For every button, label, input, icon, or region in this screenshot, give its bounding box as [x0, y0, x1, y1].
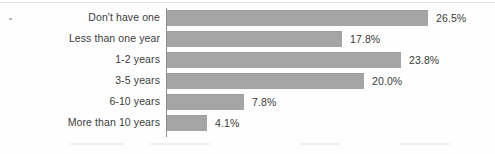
bar-row: More than 10 years 4.1%: [0, 114, 495, 135]
category-label: 6-10 years: [0, 95, 160, 108]
category-label: 1-2 years: [0, 53, 160, 66]
scan-smudge: [400, 143, 450, 145]
value-label: 20.0%: [372, 75, 402, 88]
bar-row: 1-2 years 23.8%: [0, 51, 495, 72]
value-label: 7.8%: [252, 96, 276, 109]
value-label: 23.8%: [409, 54, 439, 67]
bar-row: Don't have one 26.5%: [0, 9, 495, 30]
bar-container: [167, 73, 364, 88]
bar-row: 6-10 years 7.8%: [0, 93, 495, 114]
bar-chart: Don't have one 26.5% Less than one year …: [0, 0, 495, 154]
bar-row: Less than one year 17.8%: [0, 30, 495, 51]
value-label: 4.1%: [215, 117, 239, 130]
bar-container: [167, 52, 401, 67]
bar: [167, 10, 428, 26]
category-label: Less than one year: [0, 32, 160, 45]
plot-area: Don't have one 26.5% Less than one year …: [0, 0, 495, 154]
scan-smudge: [150, 143, 210, 145]
bar: [167, 94, 244, 110]
category-label: Don't have one: [0, 11, 160, 24]
bar: [167, 73, 364, 89]
bar-rows: Don't have one 26.5% Less than one year …: [0, 9, 495, 135]
category-label: More than 10 years: [0, 116, 160, 129]
value-label: 26.5%: [436, 12, 466, 25]
bar: [167, 31, 342, 47]
scan-smudge: [70, 143, 125, 145]
bar-container: [167, 94, 244, 109]
bar-row: 3-5 years 20.0%: [0, 72, 495, 93]
bar-container: [167, 31, 342, 46]
bar: [167, 52, 401, 68]
category-label: 3-5 years: [0, 74, 160, 87]
bar-container: [167, 10, 428, 25]
bar-container: [167, 115, 207, 130]
scan-smudge: [300, 143, 340, 145]
value-label: 17.8%: [350, 33, 380, 46]
bar: [167, 115, 207, 131]
